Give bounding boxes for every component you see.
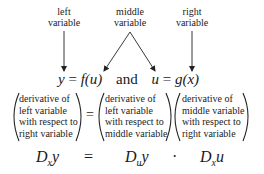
term2-line2: left variable	[105, 105, 167, 117]
term3-line1: derivative of	[182, 93, 244, 105]
verbal-term-right: derivative of middle variable with respe…	[182, 93, 244, 139]
rhs1-var: y	[142, 148, 149, 165]
term1-line4: right variable	[19, 128, 78, 140]
verbal-term-left: derivative of left variable with respect…	[19, 93, 78, 139]
rhs1-D: D	[125, 148, 137, 165]
symbolic-rhs1: Duy	[125, 148, 149, 168]
verbal-equals: =	[86, 107, 94, 123]
lhs-D: D	[36, 148, 48, 165]
verbal-term-middle: derivative of left variable with respect…	[105, 93, 167, 139]
lhs-var: y	[52, 148, 59, 165]
term1-line1: derivative of	[19, 93, 78, 105]
term3-line3: with respect to	[182, 116, 244, 128]
rhs2-D: D	[200, 148, 212, 165]
term3-line4: right variable	[182, 128, 244, 140]
symbolic-rhs2: Dxu	[200, 148, 224, 168]
symbolic-times: ·	[172, 148, 177, 166]
rhs2-var: u	[216, 148, 224, 165]
symbolic-equals: =	[84, 148, 93, 166]
term2-line4: middle variable	[105, 128, 167, 140]
term2-line3: with respect to	[105, 116, 167, 128]
term1-line2: left variable	[19, 105, 78, 117]
term1-line3: with respect to	[19, 116, 78, 128]
symbolic-lhs: Dxy	[36, 148, 59, 168]
term2-line1: derivative of	[105, 93, 167, 105]
term3-line2: middle variable	[182, 105, 244, 117]
